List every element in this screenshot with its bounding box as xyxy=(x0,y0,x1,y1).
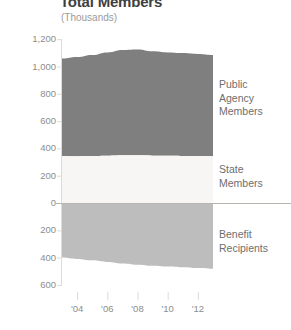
y-axis: 1,2001,0008006004002000200400600 xyxy=(0,0,56,330)
x-axis-tick-label: '10 xyxy=(161,303,173,314)
y-axis-tick-label: 200 xyxy=(4,171,56,181)
x-axis: '04'06'08'10'12 xyxy=(0,303,291,323)
y-axis-tick-label: 600 xyxy=(4,116,56,126)
y-axis-tick-label: 0 xyxy=(4,198,56,208)
y-axis-tick-label: 400 xyxy=(4,253,56,263)
y-axis-tick-label: 400 xyxy=(4,143,56,153)
x-axis-tick-label: '08 xyxy=(131,303,143,314)
y-axis-tick-label: 200 xyxy=(4,225,56,235)
y-axis-tick-label: 1,000 xyxy=(4,62,56,72)
area-benefit-recipients xyxy=(62,203,213,269)
area-state-members xyxy=(62,155,213,203)
x-axis-tick-label: '04 xyxy=(71,303,83,314)
area-public-agency-members xyxy=(62,49,213,156)
y-axis-tick-label: 1,200 xyxy=(4,34,56,44)
y-axis-tick-label: 800 xyxy=(4,89,56,99)
x-axis-tick-label: '06 xyxy=(101,303,113,314)
legend-item-benefit-recipients: Benefit Recipients xyxy=(219,228,268,255)
legend-item-public-agency-members: Public Agency Members xyxy=(219,78,263,119)
total-members-chart: Total Members (Thousands) 1,2001,0008006… xyxy=(0,0,291,330)
legend-item-state-members: State Members xyxy=(219,163,263,190)
x-axis-tick-label: '12 xyxy=(192,303,204,314)
y-axis-tick-label: 600 xyxy=(4,280,56,290)
